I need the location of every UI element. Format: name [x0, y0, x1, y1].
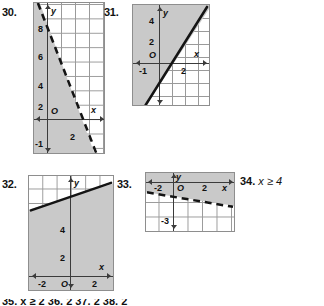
boundary-line-33 [146, 173, 234, 231]
graph-panel-32[interactable]: 4 2 -2 2 O x y [28, 175, 114, 291]
graph-panel-30[interactable]: 8 6 4 2 -1 2 O x y [33, 2, 105, 154]
origin-label-30: O [51, 107, 58, 116]
y-tick-2-32: 2 [60, 254, 65, 263]
x-tick-2-33: 2 [202, 184, 207, 193]
x-tick-neg2-33: -2 [154, 184, 162, 193]
graph-panel-33[interactable]: -2 2 -3 O x y [145, 172, 235, 232]
x-axis-label-30: x [91, 106, 96, 115]
x-tick-neg1-31: -1 [139, 67, 147, 76]
y-tick-4-32: 4 [60, 226, 65, 235]
y-tick-4-30: 4 [38, 82, 43, 91]
x-tick-2-30: 2 [70, 133, 75, 142]
exercise-number-31: 31. [104, 6, 118, 18]
x-tick-2-31: 2 [181, 67, 186, 76]
x-axis-label-32: x [99, 263, 104, 272]
x-tick-neg2-32: -2 [38, 280, 46, 289]
y-axis-label-30: y [51, 7, 56, 16]
exercise-number-34: 34. [240, 175, 255, 187]
boundary-line-30 [34, 3, 104, 153]
x-axis-label-33: x [222, 184, 227, 193]
exercise-number-32: 32. [2, 178, 16, 190]
boundary-line-32 [29, 176, 113, 290]
y-tick-6-30: 6 [38, 53, 43, 62]
origin-label-32: O [61, 280, 68, 289]
y-tick-2-30: 2 [38, 103, 43, 112]
exercise-number-30: 30. [2, 6, 16, 18]
y-axis-label-32: y [74, 179, 79, 188]
y-tick-4-31: 4 [149, 17, 154, 26]
exercise-expression-34: x ≥ 4 [258, 175, 282, 187]
y-axis-label-31: y [163, 9, 168, 18]
x-tick-2-32: 2 [92, 280, 97, 289]
clipped-bottom-row-text: 35. x ≥ 2 36. 2 37. 2 38. 2 [2, 299, 127, 306]
y-tick-2-31: 2 [149, 38, 154, 47]
y-axis-label-33: y [176, 173, 181, 182]
graph-panel-31[interactable]: 4 2 -1 2 O x y [132, 4, 210, 106]
origin-label-33: O [177, 184, 184, 193]
x-axis-label-31: x [194, 50, 199, 59]
y-tick-neg3-33: -3 [161, 217, 169, 226]
exercise-number-33: 33. [117, 178, 131, 190]
worksheet-page: 30. 8 6 4 2 -1 2 O x y 31. [0, 0, 324, 306]
exercise-item-34: 34. x ≥ 4 [240, 175, 282, 187]
clipped-bottom-row: 35. x ≥ 2 36. 2 37. 2 38. 2 [0, 299, 324, 306]
y-tick-neg1-30: -1 [35, 140, 43, 149]
origin-label-31: O [149, 51, 156, 60]
y-tick-8-30: 8 [38, 25, 43, 34]
